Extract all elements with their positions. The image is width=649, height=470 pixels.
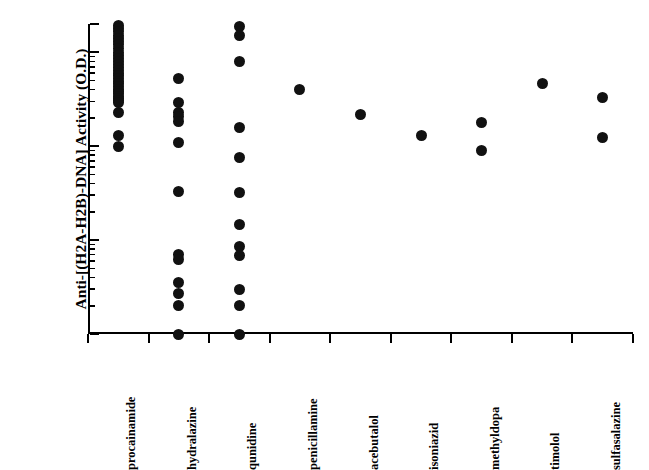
y-tick-minor: [90, 150, 95, 152]
data-point: [173, 277, 184, 288]
x-tick: [390, 334, 392, 343]
data-point: [537, 78, 548, 89]
data-point: [234, 284, 245, 295]
y-tick-minor: [90, 277, 95, 279]
data-point: [173, 329, 184, 340]
y-tick-major: [90, 333, 99, 335]
x-category-label-penicillamine: penicillamine: [306, 360, 321, 470]
x-category-label-methyldopa: methyldopa: [488, 360, 503, 470]
data-point: [294, 84, 305, 95]
data-point: [476, 117, 487, 128]
data-point: [597, 132, 608, 143]
x-tick: [450, 334, 452, 343]
x-category-label-acebutalol: acebutalol: [367, 360, 382, 470]
data-point: [234, 250, 245, 261]
y-tick-minor: [90, 211, 95, 213]
y-tick-minor: [90, 166, 95, 168]
data-point: [234, 187, 245, 198]
y-tick-minor: [90, 101, 95, 103]
data-point: [355, 109, 366, 120]
y-tick-minor: [90, 160, 95, 162]
y-tick-minor: [90, 305, 95, 307]
y-tick-minor: [90, 260, 95, 262]
y-tick-minor: [90, 72, 95, 74]
y-tick-major: [90, 23, 99, 25]
y-tick-minor: [90, 66, 95, 68]
data-point: [173, 186, 184, 197]
data-point: [234, 152, 245, 163]
data-point: [234, 219, 245, 230]
y-tick-minor: [90, 244, 95, 246]
data-point: [234, 329, 245, 340]
x-tick: [511, 334, 513, 343]
x-tick: [632, 334, 634, 343]
data-point: [476, 145, 487, 156]
x-category-label-procainamide: procainamide: [124, 360, 139, 470]
x-tick: [269, 334, 271, 343]
data-point: [113, 107, 124, 118]
x-axis-line: [88, 332, 633, 334]
x-category-label-qunidine: qunidine: [245, 360, 260, 470]
data-point: [113, 130, 124, 141]
y-tick-minor: [90, 254, 95, 256]
y-tick-major: [90, 51, 99, 53]
y-tick-minor: [90, 56, 95, 58]
y-tick-minor: [90, 61, 95, 63]
plot-area: 201010.10.01 procainamidehydralazinequni…: [88, 24, 633, 334]
x-tick: [208, 334, 210, 343]
x-tick: [329, 334, 331, 343]
data-point: [234, 122, 245, 133]
x-category-label-timolol: timolol: [548, 360, 563, 470]
y-tick-minor: [90, 154, 95, 156]
data-point: [173, 254, 184, 265]
data-point: [234, 30, 245, 41]
data-point: [173, 73, 184, 84]
x-category-label-sulfasalazine: sulfasalazine: [609, 360, 624, 470]
y-tick-minor: [90, 248, 95, 250]
data-point: [173, 288, 184, 299]
y-tick-minor: [90, 89, 95, 91]
data-point: [173, 116, 184, 127]
x-category-label-hydralazine: hydralazine: [185, 360, 200, 470]
x-tick: [571, 334, 573, 343]
y-tick-minor: [90, 268, 95, 270]
data-point: [597, 92, 608, 103]
data-point: [173, 300, 184, 311]
data-point: [234, 300, 245, 311]
x-tick: [87, 334, 89, 343]
x-tick: [148, 334, 150, 343]
y-tick-minor: [90, 194, 95, 196]
y-tick-major: [90, 145, 99, 147]
y-tick-minor: [90, 174, 95, 176]
y-tick-minor: [90, 117, 95, 119]
x-category-label-isoniazid: isoniazid: [427, 360, 442, 470]
data-point: [416, 130, 427, 141]
data-point: [113, 141, 124, 152]
y-tick-minor: [90, 183, 95, 185]
data-point: [234, 56, 245, 67]
y-tick-major: [90, 239, 99, 241]
y-tick-minor: [90, 80, 95, 82]
data-point: [173, 137, 184, 148]
y-tick-minor: [90, 288, 95, 290]
